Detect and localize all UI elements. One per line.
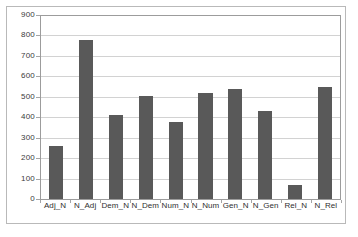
y-axis-tick-label: 700 xyxy=(21,52,35,60)
y-axis-tick-label: 900 xyxy=(21,11,35,19)
bar[interactable] xyxy=(169,122,183,199)
bar-series xyxy=(41,15,340,199)
bar[interactable] xyxy=(288,185,302,199)
x-axis-tick-label: N_Rel xyxy=(311,202,341,210)
y-axis-tick-labels: 9008007006005004003002001000 xyxy=(9,15,35,199)
y-axis-tick-label: 200 xyxy=(21,154,35,162)
x-axis-tick-label: N_Gen xyxy=(251,202,281,210)
y-axis-tick-label: 800 xyxy=(21,31,35,39)
x-axis-tick-labels: Adj_NN_AdjDem_NN_DemNum_NN_NumGen_NN_Gen… xyxy=(40,202,341,210)
y-axis-tick-label: 600 xyxy=(21,72,35,80)
x-axis-tick-label: Gen_N xyxy=(221,202,251,210)
chart-plot-wrapper: 9008007006005004003002001000 Adj_NN_AdjD… xyxy=(7,7,345,223)
x-axis-tick-label: N_Adj xyxy=(70,202,100,210)
bar[interactable] xyxy=(228,89,242,199)
bar[interactable] xyxy=(49,146,63,199)
x-axis-tick-label: Num_N xyxy=(160,202,190,210)
y-axis-tick-label: 100 xyxy=(21,175,35,183)
y-axis-tick-label: 300 xyxy=(21,134,35,142)
x-axis-tick-label: N_Num xyxy=(190,202,220,210)
chart-frame: 9008007006005004003002001000 Adj_NN_AdjD… xyxy=(6,6,346,224)
bar[interactable] xyxy=(258,111,272,199)
y-axis-tick-label: 500 xyxy=(21,93,35,101)
bar[interactable] xyxy=(139,96,153,199)
bar-slot xyxy=(250,15,280,199)
plot-area xyxy=(40,15,341,200)
bar[interactable] xyxy=(198,93,212,199)
bar-slot xyxy=(101,15,131,199)
x-axis-tick-label: Dem_N xyxy=(100,202,130,210)
bar-slot xyxy=(310,15,340,199)
bar-slot xyxy=(161,15,191,199)
bar-slot xyxy=(41,15,71,199)
x-axis-tick-label: Rel_N xyxy=(281,202,311,210)
x-axis-tick-label: N_Dem xyxy=(130,202,160,210)
bar[interactable] xyxy=(109,115,123,199)
bar[interactable] xyxy=(318,87,332,199)
bar-slot xyxy=(131,15,161,199)
x-axis-tick-label: Adj_N xyxy=(40,202,70,210)
y-axis-tick-label: 0 xyxy=(30,195,35,203)
bar-slot xyxy=(220,15,250,199)
bar[interactable] xyxy=(79,40,93,199)
bar-slot xyxy=(71,15,101,199)
y-axis-tick-label: 400 xyxy=(21,113,35,121)
bar-slot xyxy=(191,15,221,199)
x-axis-tick-mark xyxy=(341,200,342,203)
bar-slot xyxy=(280,15,310,199)
